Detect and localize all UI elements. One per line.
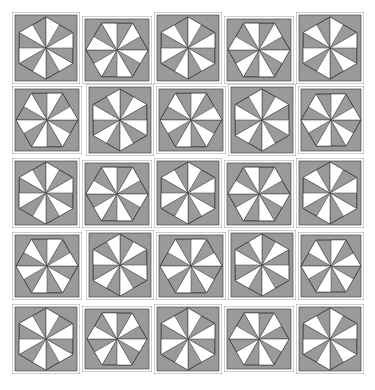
quilt-block xyxy=(82,306,152,372)
quilt-block xyxy=(298,86,364,154)
quilt-block xyxy=(156,232,226,300)
quilt-block xyxy=(12,12,80,84)
quilt-block xyxy=(224,306,294,372)
quilt-block xyxy=(156,86,226,154)
quilt-block xyxy=(154,12,222,84)
quilt-block xyxy=(154,158,222,228)
quilt-block xyxy=(86,230,154,300)
quilt-block xyxy=(296,158,364,228)
quilt-block xyxy=(82,160,152,228)
quilt-block xyxy=(224,16,294,84)
quilt-block xyxy=(228,84,296,156)
quilt-block xyxy=(224,160,294,228)
quilt-block xyxy=(298,232,364,300)
quilt-block xyxy=(296,12,364,84)
quilt-block xyxy=(86,84,154,156)
quilt-block xyxy=(12,232,82,300)
quilt-block xyxy=(228,230,296,300)
quilt-block xyxy=(12,86,82,154)
quilt-block xyxy=(154,304,222,374)
quilt-pattern xyxy=(12,12,364,374)
quilt-block xyxy=(12,304,80,374)
quilt-block xyxy=(12,158,80,228)
quilt-block xyxy=(82,16,152,84)
quilt-block xyxy=(296,304,364,374)
